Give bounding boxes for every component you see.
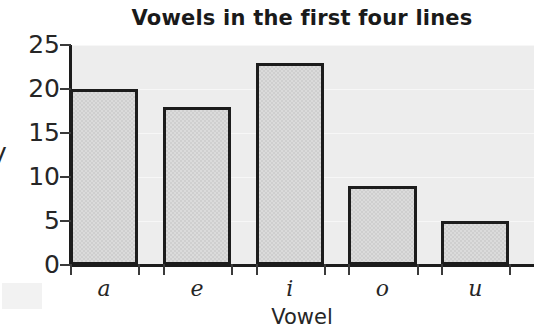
x-tick-label-a: a <box>70 278 138 300</box>
scan-artifact <box>2 283 42 309</box>
bars-layer <box>70 45 534 265</box>
y-axis-line <box>69 45 72 265</box>
x-tick <box>324 264 326 275</box>
bar-i <box>256 63 324 265</box>
x-tick <box>441 264 443 275</box>
y-axis-label: y <box>0 140 7 165</box>
x-tick-label-e: e <box>163 278 231 300</box>
y-tick-label-20: 20 <box>4 76 60 101</box>
chart-title: Vowels in the first four lines <box>70 6 534 30</box>
x-tick <box>348 264 350 275</box>
x-tick <box>231 264 233 275</box>
y-tick <box>60 176 71 178</box>
y-tick-label-5: 5 <box>4 208 60 233</box>
bar-o <box>348 186 416 265</box>
x-axis-label: Vowel <box>70 305 534 329</box>
y-tick-label-25: 25 <box>4 32 60 57</box>
bar-chart-figure: Vowels in the first four lines 051015202… <box>0 0 534 332</box>
x-tick-label-o: o <box>348 278 416 300</box>
x-tick <box>256 264 258 275</box>
plot-area <box>70 45 534 265</box>
y-tick <box>60 220 71 222</box>
x-tick-label-i: i <box>256 278 324 300</box>
y-tick <box>60 132 71 134</box>
x-tick <box>70 264 72 275</box>
bar-a <box>70 89 138 265</box>
x-tick <box>509 264 511 275</box>
x-tick <box>417 264 419 275</box>
bar-e <box>163 107 231 265</box>
y-tick-label-15: 15 <box>4 120 60 145</box>
x-tick-label-u: u <box>441 278 509 300</box>
y-tick <box>60 88 71 90</box>
bar-u <box>441 221 509 265</box>
x-tick <box>138 264 140 275</box>
y-tick <box>60 44 71 46</box>
x-tick <box>163 264 165 275</box>
y-tick-label-0: 0 <box>4 252 60 277</box>
y-tick-label-10: 10 <box>4 164 60 189</box>
